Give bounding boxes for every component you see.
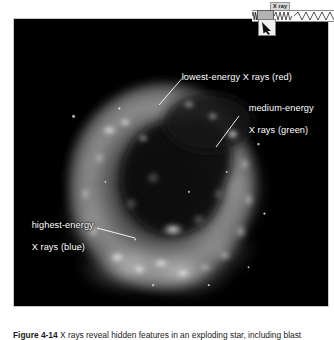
annotation-lowest-energy-text: lowest-energy X rays (red) [182,72,292,82]
annotation-medium-energy-line2: X rays (green) [249,125,309,135]
annotation-highest-energy-line1: highest-energy [32,220,94,230]
annotation-medium-energy: medium-energy X rays (green) [238,92,314,147]
annotation-highest-energy-line2: X rays (blue) [32,242,85,252]
figure-caption: Figure 4-14 X rays reveal hidden feature… [13,330,329,340]
annotation-lowest-energy: lowest-energy X rays (red) [171,61,292,94]
arrow-pointer-icon [259,20,275,35]
figure-caption-text: X rays reveal hidden features in an expl… [60,330,301,340]
electromagnetic-spectrum-indicator: X ray [243,2,334,36]
annotation-highest-energy: highest-energy X rays (blue) [21,209,94,264]
spectrum-pointer-cursor [258,19,276,36]
annotation-medium-energy-line1: medium-energy [249,103,314,113]
figure-caption-number: Figure 4-14 [13,330,58,340]
